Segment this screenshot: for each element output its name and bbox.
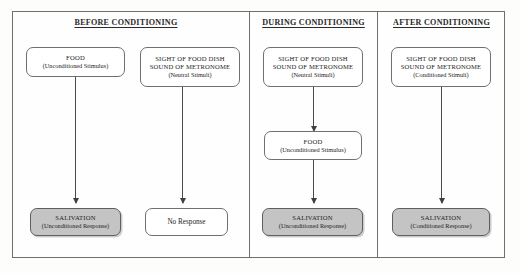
node-during-salivation: SALIVATION (Unconditioned Response): [262, 208, 363, 236]
arrow-before-food-to-salivation: [75, 77, 76, 203]
node-before-food: FOOD (Unconditioned Stimulus): [26, 47, 125, 77]
panel-title-after: AFTER CONDITIONING: [384, 18, 499, 27]
node-line: (Neutral Stimuli): [168, 71, 211, 79]
arrowhead-icon: [180, 198, 186, 204]
node-line: (Conditioned Response): [410, 222, 471, 230]
node-line: (Unconditioned Stimulus): [280, 146, 346, 154]
panel-title-before: BEFORE CONDITIONING: [26, 18, 226, 27]
arrow-during-food-to-salivation: [313, 160, 314, 203]
arrow-before-neutral-to-no-response: [182, 87, 183, 203]
node-line: FOOD: [304, 138, 323, 146]
arrowhead-icon: [73, 198, 79, 204]
node-line: (Unconditioned Response): [42, 222, 109, 230]
node-before-neutral: SIGHT OF FOOD DISH SOUND OF METRONOME (N…: [140, 47, 240, 87]
node-line: SALIVATION: [292, 214, 332, 222]
node-line: (Unconditioned Response): [279, 222, 346, 230]
node-line: SALIVATION: [55, 214, 95, 222]
panel-divider-1: [249, 11, 250, 258]
panel-divider-2: [377, 11, 378, 258]
node-line: SOUND OF METRONOME: [273, 63, 354, 71]
node-during-neutral: SIGHT OF FOOD DISH SOUND OF METRONOME (N…: [263, 47, 363, 87]
node-line: SIGHT OF FOOD DISH: [406, 55, 476, 63]
node-after-conditioned: SIGHT OF FOOD DISH SOUND OF METRONOME (C…: [391, 47, 491, 87]
node-line: SOUND OF METRONOME: [150, 63, 231, 71]
node-line: FOOD: [66, 54, 85, 62]
node-line: SOUND OF METRONOME: [401, 63, 482, 71]
node-before-salivation: SALIVATION (Unconditioned Response): [30, 208, 121, 236]
node-line: (Neutral Stimuli): [291, 71, 334, 79]
node-line: SALIVATION: [421, 214, 461, 222]
arrowhead-icon: [439, 198, 445, 204]
node-line: SIGHT OF FOOD DISH: [155, 55, 225, 63]
panel-title-during: DURING CONDITIONING: [256, 18, 371, 27]
node-after-salivation: SALIVATION (Conditioned Response): [392, 208, 490, 236]
node-during-food: FOOD (Unconditioned Stimulus): [264, 131, 362, 160]
diagram-canvas: BEFORE CONDITIONING DURING CONDITIONING …: [0, 0, 520, 273]
arrow-during-neutral-to-food: [313, 87, 314, 131]
node-line: No Response: [167, 218, 205, 227]
arrowhead-icon: [311, 198, 317, 204]
node-line: (Unconditioned Stimulus): [43, 62, 109, 70]
arrow-after-conditioned-to-salivation: [441, 87, 442, 203]
node-before-no-response: No Response: [145, 208, 228, 236]
node-line: SIGHT OF FOOD DISH: [278, 55, 348, 63]
node-line: (Conditioned Stimuli): [413, 71, 468, 79]
